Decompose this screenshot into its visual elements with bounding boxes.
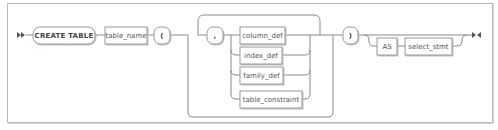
create-table-keyword: CREATE TABLE (33, 27, 95, 44)
close-paren-keyword: ) (343, 27, 358, 44)
start-marker-icon (17, 32, 25, 38)
select-stmt-node: select_stmt (405, 38, 452, 55)
table-name-node: table_name (105, 27, 147, 44)
family-def-node: family_def (240, 67, 283, 84)
comma-keyword: , (207, 27, 223, 44)
end-marker-icon (472, 32, 481, 38)
index-def-node: index_def (240, 47, 282, 64)
as-keyword: AS (377, 38, 397, 55)
table-constraint-node: table_constraint (240, 91, 302, 108)
railroad-lines (0, 0, 498, 130)
open-paren-keyword: ( (154, 27, 170, 44)
column-def-node: column_def (240, 27, 285, 44)
